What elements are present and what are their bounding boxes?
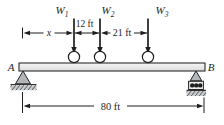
roller-support-b-roller1-icon bbox=[190, 83, 194, 87]
dimension-21ft-right-arrow-icon bbox=[141, 31, 148, 35]
beam-end-label-b: B bbox=[208, 61, 215, 73]
dimension-12ft-label: 12 ft bbox=[76, 19, 94, 29]
roller-support-b-roller3-icon bbox=[198, 83, 202, 87]
pin-support-a bbox=[11, 71, 37, 90]
pin-support-a-ground-hatch bbox=[11, 85, 37, 90]
load-w2-wheel-icon bbox=[94, 51, 105, 62]
pin-support-a-triangle-icon bbox=[16, 71, 31, 84]
dimension-span-right-arrow-icon bbox=[197, 104, 204, 108]
roller-support-b-ground-hatch bbox=[187, 91, 207, 96]
dimension-21ft-left-arrow-icon bbox=[101, 31, 108, 35]
dimension-21ft-label: 21 ft bbox=[113, 27, 132, 38]
roller-support-b bbox=[187, 71, 207, 96]
roller-support-b-triangle-icon bbox=[190, 71, 202, 81]
load-w3-wheel-icon bbox=[142, 51, 153, 62]
dimension-span: 80 ft bbox=[23, 92, 205, 113]
dimension-x-label: x bbox=[46, 27, 52, 38]
dimension-x-left-arrow-icon bbox=[24, 31, 31, 35]
dimension-21ft: 21 ft bbox=[101, 27, 147, 38]
roller-support-b-roller2-icon bbox=[194, 83, 198, 87]
beam bbox=[19, 63, 205, 71]
dimension-12ft: 12 ft bbox=[75, 19, 99, 35]
dimension-x: x bbox=[23, 27, 74, 38]
load-w3-label: W3 bbox=[156, 4, 169, 19]
dimension-span-left-arrow-icon bbox=[24, 104, 31, 108]
load-w1-wheel-icon bbox=[68, 51, 79, 62]
dimension-12ft-left-arrow-icon bbox=[75, 31, 82, 35]
dimension-span-label: 80 ft bbox=[101, 101, 121, 112]
dimension-x-right-arrow-icon bbox=[67, 31, 74, 35]
diagram-canvas: A B W1 W2 W3 x bbox=[0, 0, 224, 125]
load-w2-label: W2 bbox=[102, 4, 115, 19]
beam-load-diagram: A B W1 W2 W3 x bbox=[0, 0, 224, 125]
load-w1-label: W1 bbox=[56, 4, 69, 19]
dimension-12ft-right-arrow-icon bbox=[93, 31, 100, 35]
beam-end-label-a: A bbox=[7, 61, 15, 73]
